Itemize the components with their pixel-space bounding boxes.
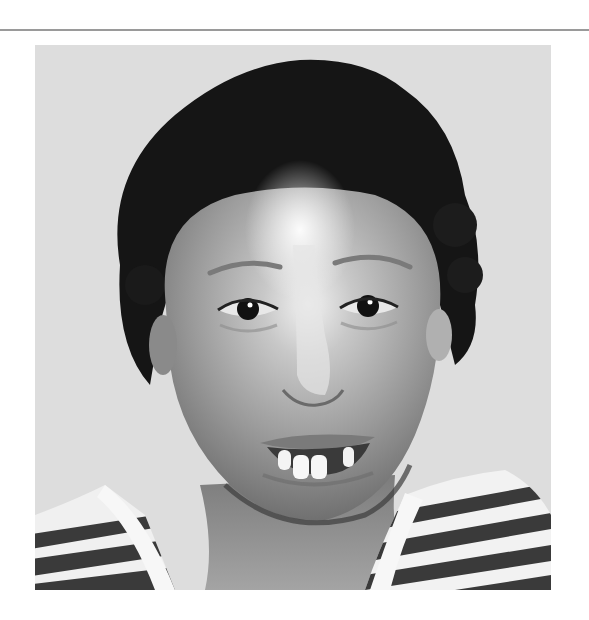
portrait-photo	[35, 45, 551, 590]
horizontal-rule	[0, 29, 589, 31]
portrait-illustration	[35, 45, 551, 590]
